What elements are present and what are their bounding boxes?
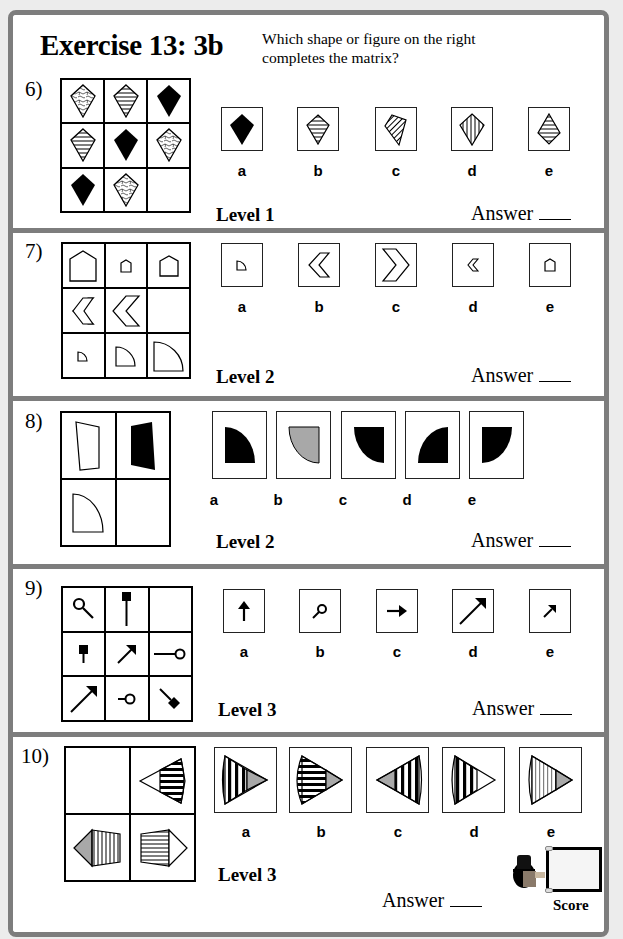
option-a[interactable] [221,107,263,151]
matrix-cell-empty [147,288,190,333]
option-c[interactable] [366,747,429,813]
house-large-icon [68,249,98,283]
matrix-cell [62,632,105,677]
option-e[interactable] [528,107,570,151]
option-label: a [232,298,252,315]
option-label: d [464,823,484,840]
arrow-diagonal-long-icon [69,684,99,714]
question-9-matrix [61,586,193,722]
matrix-cell [130,814,195,881]
option-e[interactable] [529,589,571,633]
matrix-cell [62,587,105,632]
option-label: b [308,162,328,179]
cone-right-vstripe-white-tip-icon [449,753,499,807]
answer-blank[interactable] [450,893,482,907]
worksheet-frame: Exercise 13: 3b Which shape or figure on… [8,10,609,937]
answer-field[interactable]: Answer [382,889,482,912]
option-d[interactable] [452,589,494,633]
answer-field[interactable]: Answer [471,202,571,225]
chevron-right-large-icon [381,247,411,283]
option-a[interactable] [223,589,265,633]
difficulty-level: Level 3 [218,864,277,886]
answer-field[interactable]: Answer [471,529,571,552]
difficulty-level: Level 1 [216,204,275,226]
option-a[interactable] [212,411,267,479]
matrix-cell [61,412,116,479]
kite-diagonal-stripe-icon [381,111,411,147]
option-b[interactable] [276,411,331,479]
matrix-cell [105,676,148,721]
matrix-cell [61,479,116,546]
answer-blank[interactable] [539,533,571,547]
matrix-cell [62,676,105,721]
kite-squiggle-icon [112,172,140,208]
question-number: 9) [25,576,43,601]
option-b[interactable] [297,107,339,151]
kite-hstripe-icon [69,127,97,163]
answer-blank[interactable] [540,701,572,715]
option-b[interactable] [299,589,341,633]
chevron-left-small-icon [466,257,480,273]
option-a[interactable] [221,243,263,287]
quarter-circle-white-icon [71,492,105,534]
answer-blank[interactable] [539,368,571,382]
matrix-cell [105,333,148,378]
quarter-circle-black-icon [223,425,257,465]
kite-black-icon [112,127,140,163]
option-d[interactable] [405,411,460,479]
option-label: c [387,643,407,660]
difficulty-level: Level 2 [216,531,275,553]
magnifier-icon [71,596,97,622]
quarter-circle-large-icon [152,339,186,373]
matrix-cell [147,123,190,167]
matrix-cell-empty [65,747,130,814]
question-number: 6) [25,77,43,102]
kite-black-icon [69,172,97,208]
option-c[interactable] [375,107,417,151]
kite-squiggle-icon [69,83,97,119]
cone-left-hstripe-icon [138,756,188,806]
answer-field[interactable]: Answer [472,697,572,720]
matrix-cell [105,587,148,632]
option-b[interactable] [298,243,340,287]
option-e[interactable] [469,411,524,479]
quarter-circle-small-icon [235,258,249,272]
option-label: a [204,491,224,508]
matrix-cell [149,676,192,721]
option-d[interactable] [451,107,493,151]
option-d[interactable] [452,243,494,287]
house-small-icon [119,258,133,274]
matrix-cell [147,333,190,378]
matrix-cell-empty [149,587,192,632]
kite-inverted-hstripe-icon [534,111,564,147]
diamond-pin-icon [158,687,182,711]
arrow-diagonal-medium-icon [116,643,138,665]
trapezoid-black-icon [129,420,157,472]
option-b[interactable] [289,747,352,813]
option-c[interactable] [376,589,418,633]
answer-blank[interactable] [539,206,571,220]
score-box[interactable] [546,847,602,892]
option-label: e [540,298,560,315]
option-label: d [463,298,483,315]
option-label: a [236,823,256,840]
answer-field[interactable]: Answer [471,364,571,387]
difficulty-level: Level 2 [216,366,275,388]
kite-black-icon [155,83,183,119]
quarter-circle-black-icon [416,425,450,465]
matrix-cell [62,243,105,288]
option-a[interactable] [214,747,277,813]
question-8-panel: 8) a b c d e Level 2 Answer [13,401,604,564]
option-e[interactable] [519,747,582,813]
question-10-panel: 10) a b c d e Level 3 Answer [13,737,604,937]
option-e[interactable] [529,243,571,287]
question-7-panel: 7) a b c d e Level 2 Answer [13,233,604,396]
option-c[interactable] [375,243,417,287]
quarter-circle-medium-icon [114,344,138,368]
option-c[interactable] [341,411,396,479]
option-label: c [388,823,408,840]
quarter-circle-black-icon [352,425,386,465]
matrix-cell [104,168,147,212]
option-d[interactable] [442,747,505,813]
kite-squiggle-icon [155,127,183,163]
